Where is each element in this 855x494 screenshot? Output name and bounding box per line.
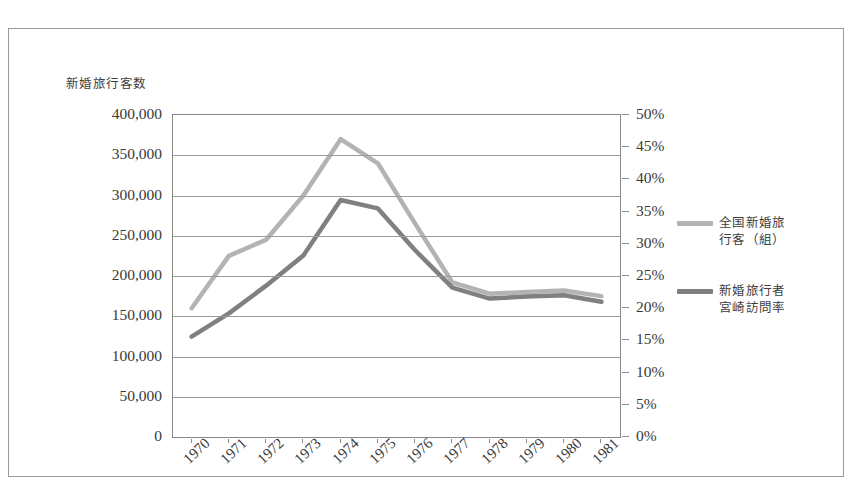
left-axis-tick-label: 50,000 (52, 387, 162, 405)
gridline (173, 276, 620, 277)
legend-item-miyazaki-visit-rate: 新婚旅行者 宮崎訪問率 (677, 283, 807, 317)
right-axis-tick-label: 25% (636, 266, 664, 284)
right-axis-tick-mark (622, 307, 629, 308)
left-axis-tick-label: 150,000 (52, 306, 162, 324)
legend-label-series-1-line1: 新婚旅行者 (719, 284, 786, 298)
x-axis-tick-label: 1970 (180, 435, 214, 468)
right-axis-tick-label: 40% (636, 169, 664, 187)
left-axis-tick-label: 300,000 (52, 186, 162, 204)
legend-label-series-0: 全国新婚旅 行客（組） (719, 215, 807, 249)
x-axis-tick-label: 1981 (589, 435, 623, 468)
y-axis-title: 新婚旅行客数 (66, 73, 146, 92)
right-axis-tick-label: 0% (636, 427, 657, 445)
x-axis-tick-label: 1972 (254, 435, 288, 468)
right-axis-tick-mark (622, 339, 629, 340)
gridline (173, 397, 620, 398)
x-axis-tick-label: 1980 (552, 435, 586, 468)
x-axis-tick-label: 1971 (217, 435, 251, 468)
legend-label-series-1-line2: 宮崎訪問率 (719, 301, 786, 315)
right-axis-tick-label: 10% (636, 363, 664, 381)
right-axis-tick-mark (622, 243, 629, 244)
right-axis-tick-label: 50% (636, 105, 664, 123)
x-axis-tick-label: 1978 (478, 435, 512, 468)
right-axis-tick-mark (622, 178, 629, 179)
gridline (173, 236, 620, 237)
left-axis-tick-label: 200,000 (52, 266, 162, 284)
right-axis-tick-mark (622, 275, 629, 276)
gridline (173, 357, 620, 358)
x-axis-tick-label: 1977 (440, 435, 474, 468)
legend-label-series-1: 新婚旅行者 宮崎訪問率 (719, 283, 807, 317)
legend-swatch-series-0 (677, 221, 713, 226)
left-axis-tick-label: 250,000 (52, 226, 162, 244)
left-axis-tick-label: 350,000 (52, 145, 162, 163)
x-axis-tick-mark (191, 439, 192, 443)
x-axis-tick-label: 1973 (291, 435, 325, 468)
x-axis-tick-label: 1979 (515, 435, 549, 468)
series-line-0 (192, 139, 602, 308)
right-axis-tick-mark (622, 372, 629, 373)
legend-label-series-0-line1: 全国新婚旅 (719, 216, 786, 230)
right-axis-tick-mark (622, 404, 629, 405)
chart-figure: 新婚旅行客数 050,000100,000150,000200,000250,0… (0, 0, 855, 494)
plot-area (172, 114, 621, 438)
x-axis-tick-mark (489, 439, 490, 443)
x-axis-tick-label: 1975 (366, 435, 400, 468)
x-axis-tick-labels: 1970197119721973197419751976197719781979… (172, 439, 621, 494)
x-axis-tick-mark (228, 439, 229, 443)
left-axis-tick-label: 400,000 (52, 105, 162, 123)
x-axis-tick-mark (340, 439, 341, 443)
right-axis-tick-mark (622, 114, 629, 115)
left-axis-tick-label: 100,000 (52, 347, 162, 365)
right-axis-tick-label: 20% (636, 298, 664, 316)
right-axis-tick-label: 35% (636, 202, 664, 220)
legend-swatch-series-1 (677, 289, 713, 294)
right-axis-tick-label: 30% (636, 234, 664, 252)
chart-legend: 全国新婚旅 行客（組） 新婚旅行者 宮崎訪問率 (677, 215, 807, 351)
right-axis-tick-mark (622, 211, 629, 212)
left-axis-tick-labels: 050,000100,000150,000200,000250,000300,0… (50, 114, 162, 438)
gridline (173, 155, 620, 156)
left-axis-tick-label: 0 (52, 427, 162, 445)
right-axis-tick-mark (622, 146, 629, 147)
right-axis-tick-mark (622, 436, 629, 437)
x-axis-tick-label: 1976 (403, 435, 437, 468)
chart-outer-frame: 新婚旅行客数 050,000100,000150,000200,000250,0… (8, 28, 844, 477)
right-axis-tick-label: 5% (636, 395, 657, 413)
right-axis-tick-label: 45% (636, 137, 664, 155)
x-axis-tick-mark (377, 439, 378, 443)
x-axis-tick-mark (526, 439, 527, 443)
gridline (173, 196, 620, 197)
right-axis-tick-label: 15% (636, 330, 664, 348)
gridline (173, 316, 620, 317)
x-axis-tick-label: 1974 (329, 435, 363, 468)
legend-label-series-0-line2: 行客（組） (719, 233, 786, 247)
legend-item-national-honeymoon-travelers: 全国新婚旅 行客（組） (677, 215, 807, 249)
